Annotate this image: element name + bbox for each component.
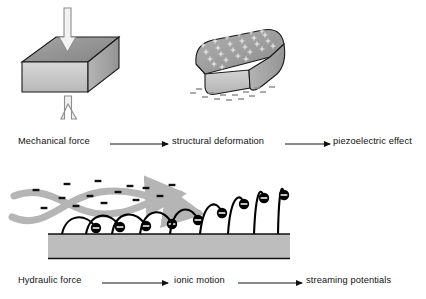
- piezoelectric-caption-row: Mechanical force structural deformation …: [0, 136, 426, 154]
- figure-canvas: Mechanical force structural deformation …: [0, 0, 426, 299]
- substrate-bar: [48, 234, 290, 259]
- caption-streaming-potentials: streaming potentials: [306, 275, 391, 285]
- caption-mechanical-force: Mechanical force: [18, 136, 90, 146]
- caption-piezoelectric-effect: piezoelectric effect: [333, 136, 412, 146]
- caption-hydraulic-force: Hydraulic force: [18, 275, 82, 285]
- caption-ionic-motion: ionic motion: [174, 275, 225, 285]
- deformed-block: [196, 30, 285, 95]
- caption-structural-deformation: structural deformation: [172, 136, 264, 146]
- upward-compression-arrow: [61, 96, 77, 119]
- streaming-caption-row: Hydraulic force ionic motion streaming p…: [0, 275, 426, 293]
